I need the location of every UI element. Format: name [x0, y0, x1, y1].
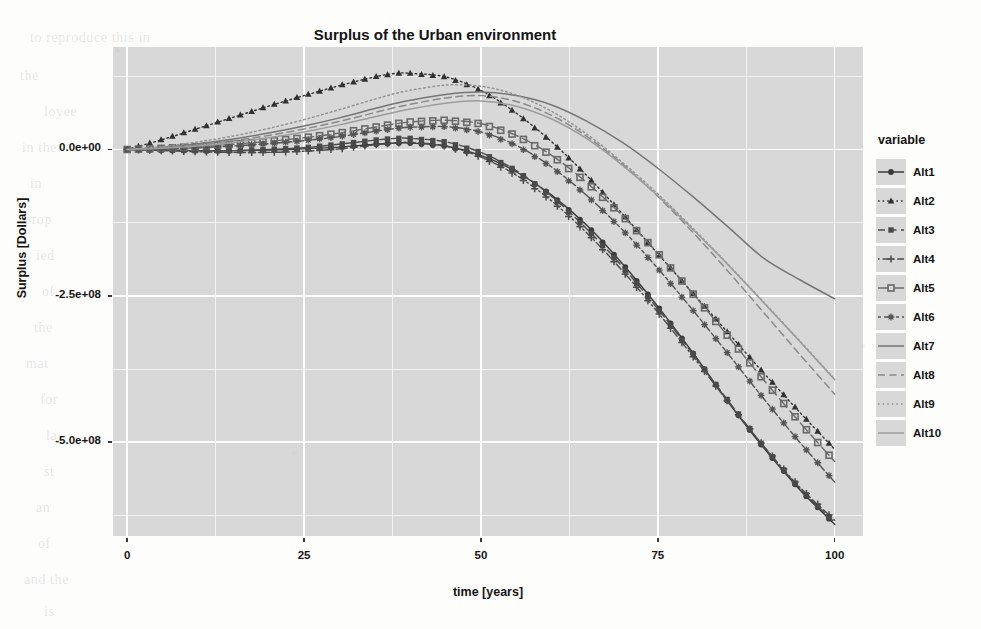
data-point-marker — [543, 134, 550, 140]
data-point-marker — [169, 133, 176, 139]
data-point-marker — [203, 122, 210, 128]
data-point-marker — [888, 227, 893, 232]
x-axis-label: time [years] — [113, 585, 863, 599]
data-point-marker — [622, 229, 629, 236]
legend-label: Alt10 — [913, 427, 941, 439]
data-point-marker — [441, 123, 448, 130]
legend-key-alt2-icon — [876, 188, 906, 214]
legend-label: Alt9 — [913, 398, 935, 410]
legend-key-alt9-icon — [876, 391, 906, 417]
data-point-marker — [814, 459, 821, 466]
data-point-marker — [441, 73, 448, 79]
data-point-marker — [780, 420, 787, 427]
series-line — [127, 138, 835, 523]
x-tick-label: 50 — [451, 549, 511, 561]
data-point-marker — [611, 218, 618, 225]
series-layer — [113, 47, 863, 536]
legend-item-alt8[interactable]: Alt8 — [876, 360, 976, 389]
x-tick-label: 100 — [805, 549, 865, 561]
data-point-marker — [146, 140, 153, 146]
x-tick-mark — [126, 538, 128, 542]
legend-key-alt4-icon — [876, 246, 906, 272]
data-point-marker — [282, 139, 289, 146]
legend-item-alt10[interactable]: Alt10 — [876, 418, 976, 447]
data-point-marker — [463, 126, 470, 133]
data-point-marker — [226, 115, 233, 121]
series-line — [127, 120, 835, 461]
legend-item-alt1[interactable]: Alt1 — [876, 157, 976, 186]
data-point-marker — [758, 392, 765, 399]
data-point-marker — [305, 91, 312, 97]
series-alt5 — [124, 117, 835, 461]
data-point-marker — [497, 136, 504, 143]
series-line — [127, 95, 835, 394]
data-point-marker — [746, 378, 753, 385]
data-point-marker — [248, 141, 255, 148]
x-tick-mark — [834, 538, 836, 542]
plot-panel — [113, 47, 863, 536]
legend-item-alt9[interactable]: Alt9 — [876, 389, 976, 418]
data-point-marker — [667, 280, 674, 287]
legend-label: Alt7 — [913, 340, 935, 352]
legend-key-alt10-icon — [876, 420, 906, 446]
data-point-marker — [452, 125, 459, 132]
legend-key-alt7-icon — [876, 333, 906, 359]
x-tick-mark — [303, 538, 305, 542]
data-point-marker — [746, 354, 753, 360]
x-tick-label: 0 — [97, 549, 157, 561]
legend-item-alt6[interactable]: Alt6 — [876, 302, 976, 331]
data-point-marker — [724, 349, 731, 356]
legend-key-alt1-icon — [876, 159, 906, 185]
data-point-marker — [282, 97, 289, 103]
x-tick-mark — [657, 538, 659, 542]
data-point-marker — [395, 125, 402, 132]
data-point-marker — [735, 364, 742, 371]
legend-label: Alt6 — [913, 311, 935, 323]
legend-item-alt4[interactable]: Alt4 — [876, 244, 976, 273]
legend-label: Alt1 — [913, 166, 935, 178]
data-point-marker — [237, 142, 244, 149]
data-point-marker — [328, 134, 335, 141]
data-point-marker — [248, 108, 255, 114]
data-point-marker — [418, 124, 425, 131]
series-line — [127, 126, 835, 482]
y-tick-mark — [108, 295, 112, 297]
series-alt4 — [124, 139, 835, 520]
legend-key-alt8-icon — [876, 362, 906, 388]
data-point-marker — [260, 141, 267, 148]
data-point-marker — [656, 267, 663, 274]
legend-item-alt7[interactable]: Alt7 — [876, 331, 976, 360]
data-point-marker — [543, 160, 550, 167]
y-tick-mark — [108, 441, 112, 443]
x-tick-mark — [480, 538, 482, 542]
chart-figure: Surplus of the Urban environment 0.0e+00… — [0, 0, 981, 629]
data-point-marker — [520, 146, 527, 153]
data-point-marker — [475, 128, 482, 135]
series-alt9 — [127, 85, 835, 379]
legend-item-alt5[interactable]: Alt5 — [876, 273, 976, 302]
data-point-marker — [577, 165, 584, 171]
data-point-marker — [565, 177, 572, 184]
data-point-marker — [328, 84, 335, 90]
y-tick-mark — [108, 149, 112, 151]
series-alt8 — [127, 95, 835, 394]
data-point-marker — [305, 137, 312, 144]
y-tick-label: 0.0e+00 — [0, 141, 101, 153]
data-point-marker — [888, 169, 894, 175]
data-point-marker — [712, 335, 719, 342]
x-tick-label: 75 — [628, 549, 688, 561]
legend-items: Alt1Alt2Alt3Alt4Alt5Alt6Alt7Alt8Alt9Alt1… — [876, 157, 976, 447]
legend-key-alt6-icon — [876, 304, 906, 330]
series-line — [127, 85, 835, 379]
data-point-marker — [887, 255, 894, 262]
data-point-marker — [531, 153, 538, 160]
legend: variable Alt1Alt2Alt3Alt4Alt5Alt6Alt7Alt… — [876, 133, 976, 447]
data-point-marker — [509, 140, 516, 147]
legend-item-alt2[interactable]: Alt2 — [876, 186, 976, 215]
data-point-marker — [633, 242, 640, 249]
legend-item-alt3[interactable]: Alt3 — [876, 215, 976, 244]
legend-label: Alt5 — [913, 282, 935, 294]
data-point-marker — [599, 207, 606, 214]
legend-title: variable — [878, 133, 976, 147]
data-point-marker — [690, 307, 697, 314]
